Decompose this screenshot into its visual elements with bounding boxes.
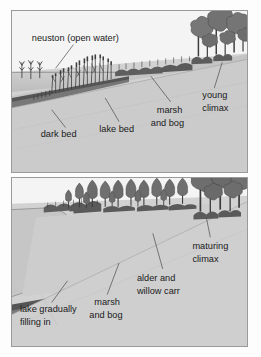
svg-text:young: young xyxy=(202,90,227,100)
svg-text:climax: climax xyxy=(202,103,228,113)
label-dark-bed: dark bed xyxy=(41,129,77,139)
svg-text:and bog: and bog xyxy=(89,310,122,320)
svg-text:alder and: alder and xyxy=(137,273,175,283)
svg-text:and bog: and bog xyxy=(151,118,184,128)
panel-bottom-scene: lake gradually filling in marsh and bog … xyxy=(12,178,247,346)
svg-text:maturing: maturing xyxy=(192,241,228,251)
succession-diagram: neuston (open water) dark bed lake bed m… xyxy=(0,0,261,357)
svg-text:marsh: marsh xyxy=(94,297,120,307)
panel-late-succession: lake gradually filling in marsh and bog … xyxy=(11,177,248,347)
svg-text:climax: climax xyxy=(192,254,218,264)
svg-text:marsh: marsh xyxy=(157,105,183,115)
label-lake-bed: lake bed xyxy=(99,124,134,134)
panel-top-scene: neuston (open water) dark bed lake bed m… xyxy=(12,11,247,172)
svg-text:filling in: filling in xyxy=(20,317,51,327)
label-neuston: neuston (open water) xyxy=(32,33,119,43)
svg-text:willow carr: willow carr xyxy=(136,286,180,296)
svg-text:lake gradually: lake gradually xyxy=(20,304,77,314)
panel-early-succession: neuston (open water) dark bed lake bed m… xyxy=(11,10,248,173)
